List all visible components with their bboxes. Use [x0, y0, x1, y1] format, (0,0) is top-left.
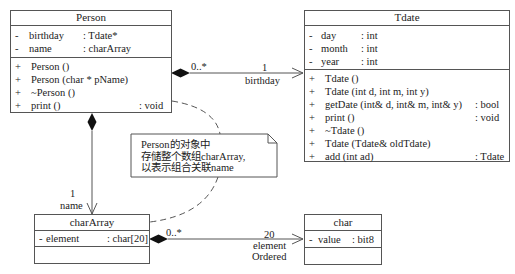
visibility: -	[309, 43, 313, 54]
visibility: -	[309, 234, 313, 245]
note-anchor-chararray	[150, 177, 218, 222]
note-line: 存储整个数组charArray,	[141, 151, 246, 163]
attribute-type: : char[20]	[107, 233, 148, 244]
visibility: +	[15, 61, 21, 72]
class-person[interactable]: Person - birthday : Tdate* - name : char…	[10, 10, 172, 113]
multiplicity-source: 0..*	[191, 61, 207, 72]
visibility: +	[15, 74, 21, 85]
operation-row: + print () : void	[305, 112, 509, 123]
attribute-type: : int	[361, 56, 378, 67]
visibility: +	[15, 100, 21, 111]
attribute-type: : bit8	[352, 234, 374, 245]
attribute-row: - month : int	[305, 43, 509, 54]
attribute-type: : Tdate*	[83, 30, 118, 41]
attribute-row: - element : char[20]	[35, 233, 149, 244]
operation-return-type: : bool	[475, 99, 499, 110]
multiplicity-target: 1	[70, 188, 75, 199]
visibility: -	[309, 56, 313, 67]
role-name: birthday	[245, 75, 280, 86]
operation-name: print ()	[31, 100, 60, 111]
visibility: +	[309, 86, 315, 97]
class-char[interactable]: char - value : bit8	[304, 214, 382, 265]
class-tdate[interactable]: Tdate - day : int - month : int - year :…	[304, 10, 510, 162]
constraint-label: Ordered	[252, 251, 286, 262]
visibility: +	[15, 87, 21, 98]
operation-row: + Person ()	[11, 61, 171, 72]
note-line: 以表示组合关联name	[141, 162, 246, 174]
multiplicity-target: 1	[262, 62, 267, 73]
association-person-chararray	[87, 113, 97, 214]
operation-row: + Person (char * pName)	[11, 74, 171, 85]
operations-section: + Person () + Person (char * pName) + ~P…	[11, 58, 171, 111]
visibility: -	[15, 30, 19, 41]
visibility: +	[309, 125, 315, 136]
operation-name: print ()	[325, 112, 354, 123]
attribute-row: - value : bit8	[305, 234, 381, 245]
attribute-row: - day : int	[305, 30, 509, 41]
operations-section: + Tdate () + Tdate (int d, int m, int y)…	[305, 70, 509, 162]
attribute-name: birthday	[29, 30, 64, 41]
attributes-section: - value : bit8	[305, 231, 381, 248]
role-name: element	[253, 240, 286, 251]
multiplicity-source: 0..*	[166, 227, 182, 238]
operation-row: + print () : void	[11, 100, 171, 111]
note-line: Person的对象中	[141, 139, 246, 151]
attribute-name: name	[29, 43, 52, 54]
operation-return-type: : void	[475, 112, 499, 123]
attribute-row: - year : int	[305, 56, 509, 67]
role-name: name	[60, 200, 83, 211]
operation-name: Tdate (Tdate& oldTdate)	[325, 138, 431, 149]
operation-row: + Tdate ()	[305, 73, 509, 84]
operation-name: Tdate ()	[325, 73, 359, 84]
attribute-name: element	[46, 233, 79, 244]
class-chararray[interactable]: charArray - element : char[20]	[34, 214, 150, 264]
operations-section	[305, 248, 381, 264]
attribute-type: : charArray	[83, 43, 131, 54]
note-anchor-person	[172, 101, 220, 134]
operation-row: + Tdate (int d, int m, int y)	[305, 86, 509, 97]
attributes-section: - day : int - month : int - year : int	[305, 26, 509, 70]
operation-name: ~Person ()	[31, 87, 75, 98]
composition-diamond-icon	[88, 113, 97, 131]
attribute-row: - birthday : Tdate*	[11, 30, 171, 41]
class-name: char	[305, 215, 381, 231]
operation-name: ~Tdate ()	[325, 125, 364, 136]
operation-name: add (int ad)	[325, 151, 373, 162]
attribute-row: - name : charArray	[11, 43, 171, 54]
operation-name: getDate (int& d, int& m, int& y)	[325, 99, 462, 110]
operations-section	[35, 247, 149, 263]
visibility: -	[15, 43, 19, 54]
class-name: charArray	[35, 215, 149, 231]
attributes-section: - element : char[20]	[35, 231, 149, 247]
attribute-name: value	[318, 234, 341, 245]
visibility: +	[309, 151, 315, 162]
visibility: +	[309, 73, 315, 84]
operation-name: Person (char * pName)	[31, 74, 128, 85]
operation-row: + ~Person ()	[11, 87, 171, 98]
attribute-type: : int	[361, 43, 378, 54]
visibility: -	[309, 30, 313, 41]
operation-row: + ~Tdate ()	[305, 125, 509, 136]
attribute-type: : int	[361, 30, 378, 41]
class-name: Tdate	[305, 11, 509, 26]
operation-row: + getDate (int& d, int& m, int& y) : boo…	[305, 99, 509, 110]
visibility: -	[39, 233, 43, 244]
note-text: Person的对象中 存储整个数组charArray, 以表示组合关联name	[141, 139, 246, 174]
note[interactable]: Person的对象中 存储整个数组charArray, 以表示组合关联name	[131, 134, 277, 177]
operation-row: + add (int ad) : Tdate	[305, 151, 509, 162]
attribute-name: month	[321, 43, 348, 54]
attribute-name: day	[321, 30, 336, 41]
uml-class-diagram: Person - birthday : Tdate* - name : char…	[0, 0, 515, 274]
multiplicity-target: 20	[264, 229, 275, 240]
operation-row: + Tdate (Tdate& oldTdate)	[305, 138, 509, 149]
attribute-name: year	[321, 56, 339, 67]
visibility: +	[309, 99, 315, 110]
class-name: Person	[11, 11, 171, 26]
attributes-section: - birthday : Tdate* - name : charArray	[11, 26, 171, 58]
visibility: +	[309, 138, 315, 149]
operation-name: Person ()	[31, 61, 69, 72]
operation-name: Tdate (int d, int m, int y)	[325, 86, 429, 97]
visibility: +	[309, 112, 315, 123]
composition-diamond-icon	[171, 69, 190, 78]
operation-return-type: : Tdate	[475, 151, 504, 162]
